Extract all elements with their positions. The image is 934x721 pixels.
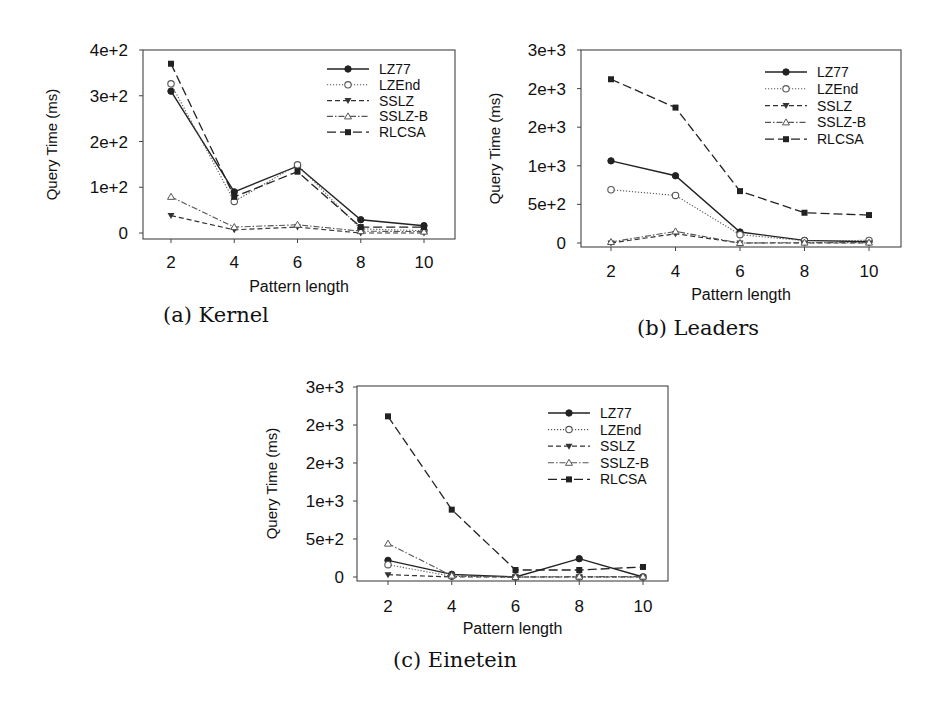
caption-einetein: (c) Einetein — [393, 648, 517, 672]
y-tick-label: 0 — [335, 568, 344, 587]
x-tick-label: 2 — [383, 597, 392, 616]
square-filled-marker-icon — [449, 507, 455, 513]
y-tick-label: 2e+3 — [306, 416, 344, 435]
square-filled-marker-icon — [576, 567, 582, 573]
legend-item-lzend: LZEnd — [548, 422, 641, 438]
circle-open-marker-icon — [566, 426, 572, 432]
legend-item-sslz: SSLZ — [548, 438, 635, 454]
legend-item-sslz-b: SSLZ-B — [548, 455, 649, 471]
x-tick-label: 6 — [511, 597, 520, 616]
legend-label: RLCSA — [600, 471, 647, 487]
chart-einetein: 05e+21e+32e+32e+33e+3246810Pattern lengt… — [0, 0, 934, 721]
x-tick-label: 8 — [575, 597, 584, 616]
square-filled-marker-icon — [640, 564, 646, 570]
y-tick-label: 2e+3 — [306, 454, 344, 473]
circle-filled-marker-icon — [566, 410, 572, 416]
x-tick-label: 10 — [634, 597, 653, 616]
y-axis-title: Query Time (ms) — [263, 428, 280, 540]
y-tick-label: 1e+3 — [306, 492, 344, 511]
y-tick-label: 5e+2 — [306, 530, 344, 549]
square-filled-marker-icon — [566, 476, 572, 482]
legend-label: SSLZ-B — [600, 455, 649, 471]
legend-label: SSLZ — [600, 438, 635, 454]
circle-filled-marker-icon — [576, 555, 582, 561]
y-tick-label: 3e+3 — [306, 378, 344, 397]
x-tick-label: 4 — [447, 597, 456, 616]
legend-label: LZ77 — [600, 405, 632, 421]
square-filled-marker-icon — [385, 413, 391, 419]
chart-einetein-plot: 05e+21e+32e+32e+33e+3246810Pattern lengt… — [0, 0, 934, 721]
circle-open-marker-icon — [385, 561, 391, 567]
legend-label: LZEnd — [600, 422, 641, 438]
x-axis-title: Pattern length — [463, 620, 563, 637]
legend-item-lz77: LZ77 — [548, 405, 632, 421]
series-sslz-b — [385, 540, 647, 579]
legend: LZ77LZEndSSLZSSLZ-BRLCSA — [548, 405, 649, 487]
triangle-up-open-marker-icon — [385, 540, 392, 546]
legend-item-rlcsa: RLCSA — [548, 471, 647, 487]
square-filled-marker-icon — [513, 567, 519, 573]
